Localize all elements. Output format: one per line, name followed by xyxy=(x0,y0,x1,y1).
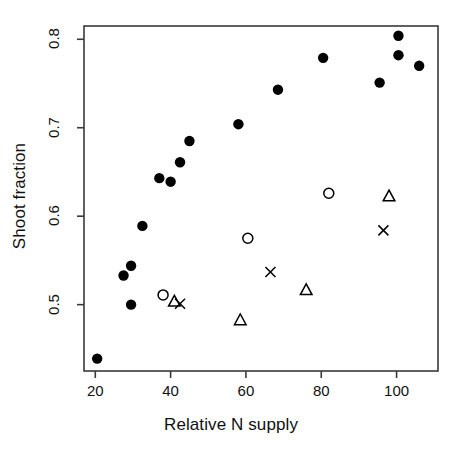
marker-filled-circle xyxy=(414,61,424,71)
axis-ticks xyxy=(77,39,397,378)
marker-filled-circle xyxy=(273,84,283,94)
marker-filled-circle xyxy=(154,173,164,183)
marker-open-circle xyxy=(158,290,168,300)
marker-filled-circle xyxy=(137,221,147,231)
y-axis-label-container: Shoot fraction xyxy=(0,0,40,400)
x-axis-label: Relative N supply xyxy=(0,415,462,435)
x-tick-label: 20 xyxy=(75,382,115,399)
marker-filled-circle xyxy=(118,270,128,280)
marker-filled-circle xyxy=(92,353,102,363)
marker-filled-circle xyxy=(126,261,136,271)
marker-filled-circle xyxy=(233,119,243,129)
marker-open-circle xyxy=(243,233,253,243)
y-tick-label: 0.7 xyxy=(45,107,62,147)
marker-open-triangle xyxy=(300,284,312,295)
y-axis-label: Shoot fraction xyxy=(10,143,30,249)
marker-open-circle xyxy=(324,188,334,198)
data-points xyxy=(92,31,424,364)
marker-filled-circle xyxy=(318,53,328,63)
marker-filled-circle xyxy=(126,299,136,309)
marker-open-triangle xyxy=(383,190,395,201)
marker-filled-circle xyxy=(374,77,384,87)
x-tick-label: 100 xyxy=(377,382,417,399)
marker-open-triangle xyxy=(234,314,246,325)
x-tick-label: 60 xyxy=(226,382,266,399)
scatter-plot-figure: Shoot fraction Relative N supply 2040608… xyxy=(0,0,462,467)
marker-filled-circle xyxy=(393,50,403,60)
y-tick-label: 0.5 xyxy=(45,284,62,324)
marker-filled-circle xyxy=(184,136,194,146)
y-tick-label: 0.6 xyxy=(45,196,62,236)
marker-filled-circle xyxy=(393,31,403,41)
marker-filled-circle xyxy=(165,176,175,186)
y-tick-label: 0.8 xyxy=(45,19,62,59)
x-tick-label: 80 xyxy=(301,382,341,399)
x-tick-label: 40 xyxy=(151,382,191,399)
marker-filled-circle xyxy=(175,157,185,167)
